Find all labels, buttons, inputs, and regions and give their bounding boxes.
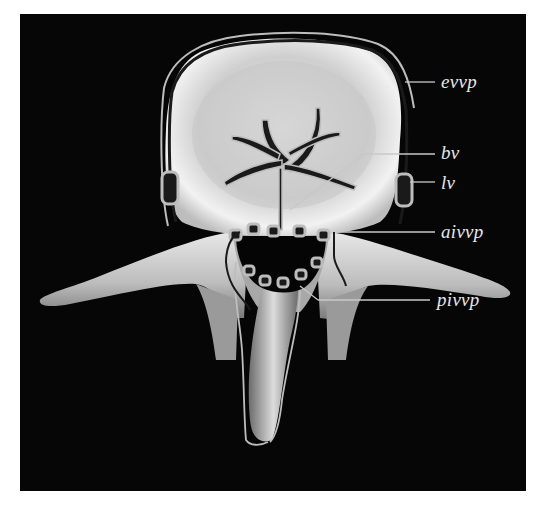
left-transverse-process: [40, 232, 248, 360]
label-bv: bv: [441, 143, 460, 162]
right-transverse-process: [316, 232, 510, 360]
spinous-process: [249, 290, 298, 441]
label-pivvp: pivvp: [437, 290, 480, 309]
label-lv: lv: [441, 173, 455, 192]
label-evvp: evvp: [441, 72, 477, 91]
lv-vessel-right: [396, 174, 412, 206]
label-aivvp: aivvp: [441, 222, 484, 241]
lv-vessel-left: [162, 172, 178, 204]
